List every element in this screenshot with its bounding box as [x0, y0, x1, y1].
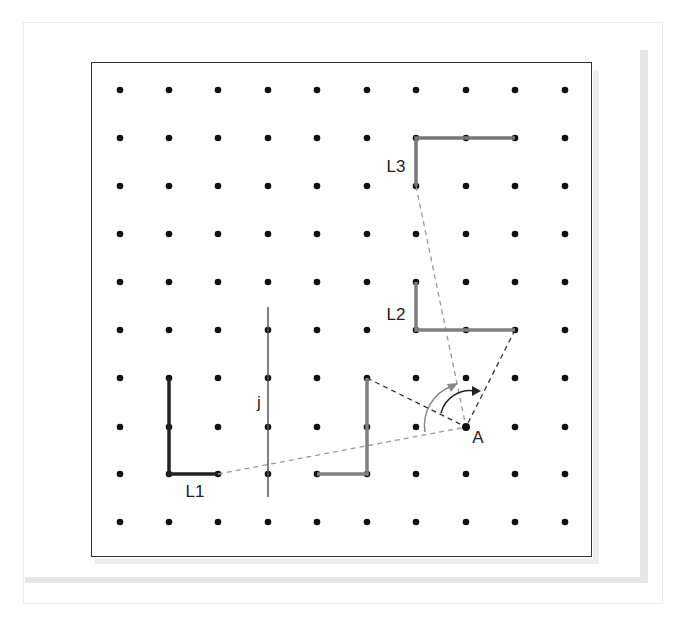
grid-dot	[413, 471, 420, 478]
grid-dot	[463, 471, 470, 478]
grid-dot	[215, 135, 222, 142]
label-j: j	[257, 394, 261, 411]
dashed-line-L3-to-A	[416, 186, 466, 427]
grid-dot	[215, 519, 222, 526]
grid-dot	[117, 231, 124, 238]
grid-dot	[265, 231, 272, 238]
grid-dot	[215, 87, 222, 94]
grid-dot	[166, 87, 173, 94]
grid-dot	[265, 519, 272, 526]
grid-dot	[117, 279, 124, 286]
grid-dot	[463, 87, 470, 94]
grid-dot	[512, 279, 519, 286]
grid-dot	[314, 135, 321, 142]
label-L1: L1	[186, 483, 205, 500]
grid-dot	[512, 375, 519, 382]
grid-dot	[512, 231, 519, 238]
rotation-arc-inner	[441, 391, 475, 413]
grid-dot	[166, 231, 173, 238]
grid-dot	[117, 183, 124, 190]
grid-dot	[117, 424, 124, 431]
grid-dot	[166, 327, 173, 334]
grid-dot	[215, 424, 222, 431]
grid-dot	[413, 375, 420, 382]
grid-dot	[562, 87, 569, 94]
point-A	[462, 423, 470, 431]
grid-dot	[364, 231, 371, 238]
dot-grid	[117, 87, 569, 526]
grid-dot	[463, 231, 470, 238]
grid-dot	[512, 519, 519, 526]
grid-dot	[117, 471, 124, 478]
rotation-arc-outer	[424, 386, 452, 432]
grid-dot	[562, 519, 569, 526]
grid-dot	[364, 279, 371, 286]
diagram-canvas	[0, 0, 682, 619]
shape-L1	[169, 378, 218, 474]
grid-dot	[512, 471, 519, 478]
grid-dot	[117, 519, 124, 526]
grid-dot	[463, 279, 470, 286]
grid-dot	[314, 183, 321, 190]
grid-dot	[314, 87, 321, 94]
grid-dot	[166, 279, 173, 286]
grid-dot	[562, 375, 569, 382]
grid-dot	[562, 279, 569, 286]
shape-L2	[416, 282, 515, 330]
grid-dot	[117, 87, 124, 94]
grid-dot	[117, 375, 124, 382]
grid-dot	[562, 183, 569, 190]
grid-dot	[314, 424, 321, 431]
grid-dot	[463, 183, 470, 190]
grid-dot	[215, 183, 222, 190]
grid-dot	[117, 135, 124, 142]
grid-dot	[314, 279, 321, 286]
grid-dot	[215, 231, 222, 238]
grid-dot	[117, 327, 124, 334]
grid-dot	[413, 424, 420, 431]
grid-dot	[562, 231, 569, 238]
grid-dot	[265, 183, 272, 190]
grid-dot	[215, 327, 222, 334]
grid-dot	[265, 87, 272, 94]
grid-dot	[413, 87, 420, 94]
shape-L-middle	[317, 378, 367, 474]
label-L3: L3	[387, 158, 406, 175]
grid-dot	[562, 327, 569, 334]
grid-dot	[215, 279, 222, 286]
label-A: A	[472, 429, 483, 446]
grid-dot	[364, 135, 371, 142]
grid-dot	[364, 327, 371, 334]
dashed-line-L2-to-A	[466, 330, 515, 427]
grid-dot	[512, 87, 519, 94]
grid-dot	[413, 231, 420, 238]
grid-dot	[562, 135, 569, 142]
grid-dot	[463, 519, 470, 526]
grid-dot	[215, 375, 222, 382]
grid-dot	[562, 471, 569, 478]
label-L2: L2	[387, 306, 406, 323]
grid-dot	[364, 183, 371, 190]
grid-dot	[166, 135, 173, 142]
grid-dot	[314, 375, 321, 382]
grid-dot	[314, 519, 321, 526]
grid-dot	[166, 183, 173, 190]
shape-L3	[416, 138, 515, 186]
dashed-line-L1-to-A	[218, 427, 466, 474]
grid-dot	[166, 519, 173, 526]
grid-dot	[364, 87, 371, 94]
grid-dot	[314, 231, 321, 238]
grid-dot	[413, 519, 420, 526]
grid-dot	[562, 424, 569, 431]
grid-dot	[364, 519, 371, 526]
arrowhead-inner-icon	[472, 386, 481, 396]
grid-dot	[512, 424, 519, 431]
grid-dot	[265, 279, 272, 286]
grid-dot	[463, 375, 470, 382]
grid-dot	[265, 135, 272, 142]
grid-dot	[512, 183, 519, 190]
grid-dot	[314, 327, 321, 334]
